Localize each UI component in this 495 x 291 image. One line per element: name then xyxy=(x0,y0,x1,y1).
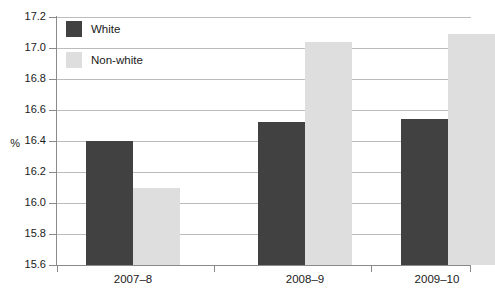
y-axis-tick xyxy=(49,172,57,173)
bar-20089-white xyxy=(258,122,305,265)
legend-label: White xyxy=(91,23,120,35)
y-axis-tick-label: 17.0 xyxy=(14,42,46,53)
gridline xyxy=(57,110,471,111)
bar-20078-non-white xyxy=(133,188,180,266)
y-axis-tick xyxy=(49,265,57,266)
y-axis-tick-label: 16.6 xyxy=(14,104,46,115)
y-axis-tick xyxy=(49,48,57,49)
legend-label: Non-white xyxy=(91,54,143,66)
gridline xyxy=(57,79,471,80)
y-axis-tick xyxy=(49,203,57,204)
y-axis-tick xyxy=(49,141,57,142)
x-axis-tick xyxy=(214,265,215,272)
gridline xyxy=(57,48,471,49)
legend-item-white: White xyxy=(66,21,120,37)
x-axis-line xyxy=(57,265,471,266)
x-axis-tick-label: 2009–10 xyxy=(382,274,492,286)
x-axis-tick xyxy=(371,265,372,272)
bar-200910-non-white xyxy=(448,34,495,265)
x-axis-tick xyxy=(470,265,471,272)
y-axis-tick xyxy=(49,234,57,235)
y-axis-tick-label: 15.6 xyxy=(14,259,46,270)
y-axis-tick xyxy=(49,79,57,80)
gridline xyxy=(57,17,471,18)
y-axis-tick-label: 16.2 xyxy=(14,166,46,177)
bar-20078-white xyxy=(86,141,133,265)
y-axis-tick-label: 15.8 xyxy=(14,228,46,239)
bar-20089-non-white xyxy=(305,42,352,265)
legend-swatch-icon xyxy=(66,52,82,68)
y-axis-tick-label: 16.4 xyxy=(14,135,46,146)
bar-200910-white xyxy=(401,119,448,265)
legend-item-non-white: Non-white xyxy=(66,52,143,68)
y-axis-tick xyxy=(49,110,57,111)
y-axis-tick-label: 17.2 xyxy=(14,11,46,22)
y-axis-tick-label: 16.0 xyxy=(14,197,46,208)
y-axis-tick-label: 16.8 xyxy=(14,73,46,84)
x-axis-tick xyxy=(57,265,58,272)
x-axis-tick-label: 2008–9 xyxy=(250,274,360,286)
y-axis-tick xyxy=(49,17,57,18)
legend-swatch-icon xyxy=(66,21,82,37)
x-axis-tick-label: 2007–8 xyxy=(78,274,188,286)
